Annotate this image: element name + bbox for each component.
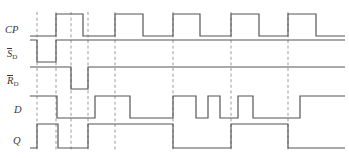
signal-label-sd-subscript: D <box>12 53 17 61</box>
signal-label-d: D <box>14 105 22 116</box>
signal-label-rd-subscript: D <box>13 80 18 88</box>
clock-marker-lines <box>37 12 288 152</box>
signal-label-cp: CP <box>5 25 18 36</box>
signal-label-rd-overbar: R <box>7 75 13 87</box>
signal-label-rd: RD <box>7 75 18 88</box>
signal-label-rd-text: R <box>7 75 13 86</box>
waveform-d <box>30 96 345 118</box>
waveform-q <box>30 124 345 148</box>
timing-diagram-figure: CP SD RD D Q <box>0 0 349 158</box>
signal-traces <box>30 14 345 148</box>
signal-label-sd: SD <box>7 48 17 61</box>
waveform-cp <box>30 14 345 36</box>
signal-label-sd-text: S <box>7 48 12 59</box>
signal-label-d-text: D <box>14 104 22 115</box>
signal-label-sd-overbar: S <box>7 48 12 60</box>
waveform-sd_bar <box>30 40 345 62</box>
signal-label-q-text: Q <box>13 135 21 146</box>
signal-label-cp-text: CP <box>5 24 18 35</box>
waveform-canvas <box>0 0 349 158</box>
waveform-rd_bar <box>30 67 345 89</box>
signal-label-q: Q <box>13 136 21 147</box>
